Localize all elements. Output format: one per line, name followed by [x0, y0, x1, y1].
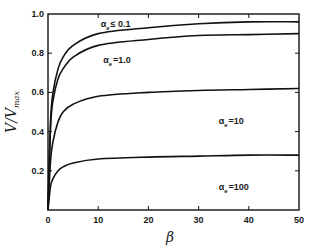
y-axis-title: V/Vmax	[3, 91, 21, 133]
series-line	[48, 34, 299, 210]
plot-axes: 010203040500.20.40.60.81.0	[31, 9, 304, 225]
plot-frame	[48, 14, 299, 210]
y-tick-label: 1.0	[31, 9, 44, 19]
series-label: αe=1.0	[103, 55, 131, 67]
y-tick-label: 0.6	[31, 87, 44, 97]
x-tick-label: 0	[45, 215, 50, 225]
x-tick-label: 20	[143, 215, 153, 225]
series-line	[48, 88, 299, 210]
y-axis-title-main: V/V	[3, 106, 19, 133]
curve-labels: αe≤ 0.1αe=1.0αe=10αe=100	[101, 19, 249, 195]
y-tick-label: 0.8	[31, 48, 44, 58]
x-tick-label: 30	[194, 215, 204, 225]
series-line	[48, 155, 299, 210]
plot-curves	[48, 22, 299, 210]
series-label: αe=100	[219, 182, 249, 194]
x-tick-label: 40	[244, 215, 254, 225]
x-axis-title: β	[165, 229, 174, 245]
series-label: αe≤ 0.1	[101, 19, 131, 31]
y-axis-title-sub: max	[12, 91, 21, 108]
x-tick-label: 50	[294, 215, 304, 225]
series-label: αe=10	[219, 116, 244, 128]
y-tick-label: 0.2	[31, 166, 44, 176]
x-tick-label: 10	[93, 215, 103, 225]
chart: 010203040500.20.40.60.81.0 αe≤ 0.1αe=1.0…	[0, 0, 314, 249]
svg-text:V/Vmax: V/Vmax	[3, 91, 21, 133]
y-tick-label: 0.4	[31, 127, 44, 137]
